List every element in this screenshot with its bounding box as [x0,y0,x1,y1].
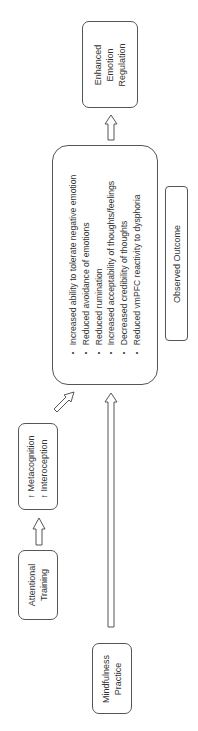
effects-list: Increased ability to tolerate negative e… [67,175,144,356]
effect-item: Reduced vmPFC reactivity to dysphoria [131,175,144,346]
arrow-cognition-to-effects [54,392,74,412]
enhanced-emotion-regulation-label: Enhanced Emotion Regulation [92,43,128,86]
observed-outcome-box: Observed Outcome [165,186,188,341]
mindfulness-practice-label: Mindfulness Practice [100,654,124,702]
arrow-effects-to-enhanced [105,115,117,140]
mindfulness-practice-box: Mindfulness Practice [92,643,132,714]
effects-box: Increased ability to tolerate negative e… [52,145,158,385]
arrow-mindfulness-to-effects [105,393,117,627]
effect-item: Increased acceptability of thoughts/feel… [105,175,118,346]
observed-outcome-label: Observed Outcome [171,224,183,302]
effect-item: Increased ability to tolerate negative e… [67,175,80,346]
attentional-training-box: Attentional Training [18,550,58,620]
attentional-training-label: Attentional Training [26,564,50,607]
effect-item: Reduced avoidance of emotions [79,175,92,346]
effect-item: Decreased credibility of thoughts [118,175,131,346]
arrow-attentional-to-cognition [33,518,45,545]
enhanced-emotion-regulation-box: Enhanced Emotion Regulation [82,21,138,108]
cognition-label: ↑ Metacognition ↑ Interoception [25,435,51,498]
effect-item: Reduced rumination [92,175,105,346]
cognition-box: ↑ Metacognition ↑ Interoception [18,423,58,510]
